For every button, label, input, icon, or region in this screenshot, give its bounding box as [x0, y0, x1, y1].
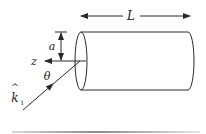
- k-label: k: [11, 91, 18, 105]
- k-subscript: i: [21, 99, 24, 107]
- radius-label: a: [49, 40, 56, 53]
- cylinder: [75, 32, 194, 90]
- length-label: L: [126, 9, 135, 23]
- incident-arrow: [23, 84, 53, 110]
- angle-label: θ: [44, 70, 51, 83]
- bottom-divider: [12, 131, 200, 133]
- cylinder-diagram: L a z θ ^ k i: [0, 0, 206, 134]
- cylinder-right-end: [188, 32, 194, 90]
- z-axis: z: [30, 55, 86, 68]
- z-axis-label: z: [30, 55, 37, 68]
- incident-wavevector: ^ k i: [11, 61, 80, 110]
- length-dimension: L: [81, 9, 190, 23]
- radius-dimension: a: [49, 32, 67, 60]
